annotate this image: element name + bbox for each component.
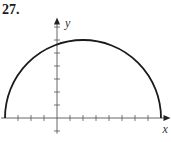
y-axis-arrow-icon	[54, 18, 60, 25]
x-axis-label: x	[162, 122, 169, 136]
x-axis-arrow-icon	[164, 115, 171, 121]
semicircle-curve	[5, 40, 161, 118]
semicircle-chart: x y	[0, 0, 171, 142]
tick-marks	[18, 27, 148, 131]
y-axis-label: y	[64, 16, 71, 30]
axes	[1, 18, 170, 134]
